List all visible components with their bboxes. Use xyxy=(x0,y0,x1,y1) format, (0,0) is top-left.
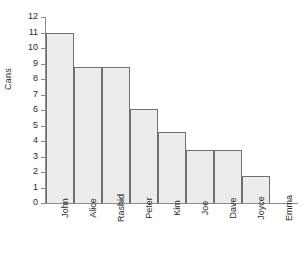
y-tick-label: 2 xyxy=(33,166,38,176)
bar-john[interactable] xyxy=(46,33,74,204)
x-axis-label-dave: Dave xyxy=(228,197,238,218)
bar-peter[interactable] xyxy=(130,109,158,203)
x-label-slot: Joe xyxy=(186,206,214,268)
y-tick-label: 0 xyxy=(33,197,38,207)
x-axis-label-john: John xyxy=(60,198,70,218)
x-label-slot: Rashid xyxy=(102,206,130,268)
x-label-slot: Alice xyxy=(74,206,102,268)
y-tick-label: 5 xyxy=(33,120,38,130)
bar-chart: Cans 1211109876543210 JohnAliceRashidPet… xyxy=(0,0,308,269)
bar-joe[interactable] xyxy=(186,150,214,203)
y-tick-label: 3 xyxy=(33,151,38,161)
y-tick-label: 9 xyxy=(33,58,38,68)
y-tick-label: 8 xyxy=(33,73,38,83)
bar-series xyxy=(46,17,298,203)
bar-slot xyxy=(130,17,158,203)
x-axis-label-joe: Joe xyxy=(200,201,210,216)
bar-slot xyxy=(102,17,130,203)
x-label-slot: Peter xyxy=(130,206,158,268)
x-axis-label-emma: Emma xyxy=(284,195,294,221)
bar-slot xyxy=(186,17,214,203)
x-label-slot: Emma xyxy=(270,206,298,268)
y-tick-label: 7 xyxy=(33,89,38,99)
x-axis-label-alice: Alice xyxy=(88,198,98,218)
bar-rashid[interactable] xyxy=(102,67,130,203)
x-axis-labels: JohnAliceRashidPeterKimJoeDaveJoyceEmma xyxy=(46,206,298,268)
bar-kim[interactable] xyxy=(158,132,186,203)
x-axis-label-rashid: Rashid xyxy=(116,194,126,222)
x-axis-label-joyce: Joyce xyxy=(256,196,266,220)
bar-slot xyxy=(46,17,74,203)
x-label-slot: Kim xyxy=(158,206,186,268)
y-tick-label: 10 xyxy=(28,42,38,52)
y-tick-label: 4 xyxy=(33,135,38,145)
bar-slot xyxy=(242,17,270,203)
x-axis-label-peter: Peter xyxy=(144,197,154,219)
x-axis-label-kim: Kim xyxy=(172,200,182,216)
bar-slot xyxy=(74,17,102,203)
y-tick-label: 12 xyxy=(28,11,38,21)
x-label-slot: Joyce xyxy=(242,206,270,268)
bar-slot xyxy=(158,17,186,203)
y-tick-label: 6 xyxy=(33,104,38,114)
y-tick-label: 11 xyxy=(29,27,38,37)
bar-slot xyxy=(270,17,298,203)
bar-dave[interactable] xyxy=(214,150,242,203)
x-label-slot: Dave xyxy=(214,206,242,268)
y-tick-label: 1 xyxy=(33,182,38,192)
x-label-slot: John xyxy=(46,206,74,268)
bar-alice[interactable] xyxy=(74,67,102,203)
bar-slot xyxy=(214,17,242,203)
